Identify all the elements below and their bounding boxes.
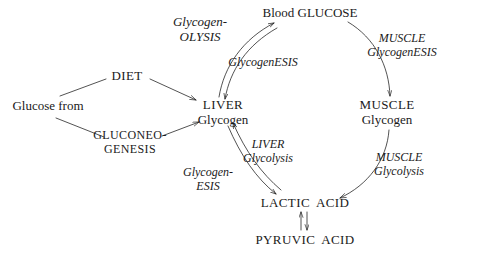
node-muscle-glycogen: MUSCLE Glycogen [359,97,414,128]
node-blood-glucose: Blood GLUCOSE [263,5,358,20]
arrow-diet-to-liver [150,79,196,100]
node-pyruvic-acid-line-1: PYRUVIC ACID [255,232,354,247]
node-pyruvic-acid: PYRUVIC ACID [255,232,354,247]
label-glycogenesis-line-1: GlycogenESIS [228,56,297,70]
node-diet: DIET [111,68,142,83]
node-lactic-acid-line-1: LACTIC ACID [261,195,350,210]
label-muscle-glycolysis: MUSCLE Glycolysis [374,151,424,179]
node-glucose-from: Glucose from [12,98,83,113]
label-muscle-glycogenesis-line-1: MUSCLE [367,32,436,46]
label-muscle-glycogenesis: MUSCLE GlycogenESIS [367,32,436,60]
label-glycogenesis: GlycogenESIS [228,56,297,70]
node-blood-glucose-line-1: Blood GLUCOSE [263,5,358,20]
label-glycogenesis-liver: Glycogen- ESIS [183,166,233,194]
label-glycogenesis-liver-line-2: ESIS [183,180,233,194]
metabolic-pathway-diagram: Glucose from DIET GLUCONEO- GENESIS LIVE… [0,0,477,259]
label-muscle-glycogenesis-line-2: GlycogenESIS [367,46,436,60]
arrow-gluconeogenesis-to-liver [162,122,199,136]
label-muscle-glycolysis-line-1: MUSCLE [374,151,424,165]
label-glycogenolysis-line-1: Glycogen- [173,15,227,30]
label-glycogenolysis: Glycogen- OLYSIS [173,15,227,45]
label-muscle-glycolysis-line-2: Glycolysis [374,165,424,179]
node-gluconeogenesis-line-2: GENESIS [93,142,167,156]
node-glucose-from-line-1: Glucose from [12,98,83,113]
node-diet-line-1: DIET [111,68,142,83]
label-glycogenesis-liver-line-1: Glycogen- [183,166,233,180]
node-gluconeogenesis-line-1: GLUCONEO- [93,128,167,142]
node-lactic-acid: LACTIC ACID [261,195,350,210]
node-muscle-glycogen-line-2: Glycogen [359,112,414,127]
node-muscle-glycogen-line-1: MUSCLE [359,97,414,112]
label-glycogenolysis-line-2: OLYSIS [173,30,227,45]
label-liver-glycolysis: LIVER Glycolysis [243,138,293,166]
node-liver-glycogen-line-1: LIVER [198,97,249,112]
node-liver-glycogen: LIVER Glycogen [198,97,249,128]
label-liver-glycolysis-line-1: LIVER [243,138,293,152]
node-gluconeogenesis: GLUCONEO- GENESIS [93,128,167,156]
node-liver-glycogen-line-2: Glycogen [198,112,249,127]
label-liver-glycolysis-line-2: Glycolysis [243,152,293,166]
arrow-glucose-to-diet [60,79,106,96]
